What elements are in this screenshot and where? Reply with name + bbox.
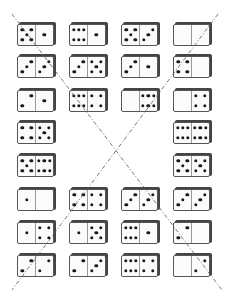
domino-half-right (139, 223, 158, 243)
pip-dot-icon (25, 198, 28, 201)
domino-half-left (174, 25, 192, 45)
pip-dot-icon (21, 70, 24, 73)
domino-half-left (70, 256, 88, 276)
pip-dot-icon (124, 236, 127, 239)
domino-half-right (35, 25, 54, 45)
domino-tile (17, 222, 54, 244)
pip-dot-icon (134, 236, 137, 239)
domino-tile (173, 155, 210, 177)
pip-dot-icon (90, 226, 93, 229)
pip-dot-icon (203, 193, 206, 196)
pip-dot-icon (82, 94, 85, 97)
domino-tile (69, 24, 106, 46)
pip-dot-icon (90, 193, 93, 196)
pip-dot-icon (43, 65, 46, 68)
domino-tile (69, 90, 106, 112)
pip-dot-icon (151, 269, 154, 272)
pip-dot-icon (204, 126, 207, 129)
domino-half-right (191, 223, 210, 243)
domino-tile (69, 56, 106, 78)
pip-dot-icon (203, 94, 206, 97)
pip-dot-icon (177, 60, 180, 63)
pip-dot-icon (29, 38, 32, 41)
domino-tile (17, 56, 54, 78)
domino-half-right (35, 156, 54, 176)
pip-dot-icon (129, 269, 132, 272)
pip-dot-icon (29, 159, 32, 162)
pip-dot-icon (185, 70, 188, 73)
domino-half-left (174, 91, 192, 111)
pip-dot-icon (142, 269, 145, 272)
pip-dot-icon (29, 259, 32, 262)
domino-half-left (18, 223, 36, 243)
domino-half-right (191, 256, 210, 276)
pip-dot-icon (125, 203, 128, 206)
pip-dot-icon (47, 226, 50, 229)
pip-dot-icon (90, 60, 93, 63)
pip-dot-icon (21, 104, 24, 107)
domino-half-left (18, 190, 36, 210)
pip-dot-icon (199, 126, 202, 129)
domino-tile (69, 189, 106, 211)
pip-dot-icon (73, 70, 76, 73)
domino-tile (173, 189, 210, 211)
pip-dot-icon (73, 193, 76, 196)
pip-dot-icon (29, 94, 32, 97)
pip-dot-icon (21, 38, 24, 41)
pip-dot-icon (177, 159, 180, 162)
pip-dot-icon (147, 94, 150, 97)
pip-dot-icon (81, 193, 84, 196)
pip-dot-icon (25, 164, 28, 167)
pip-dot-icon (177, 70, 180, 73)
pip-dot-icon (25, 33, 28, 36)
pip-dot-icon (194, 94, 197, 97)
pip-dot-icon (47, 126, 50, 129)
pip-dot-icon (133, 38, 136, 41)
pip-dot-icon (129, 198, 132, 201)
pip-dot-icon (99, 259, 102, 262)
pip-dot-icon (90, 236, 93, 239)
pip-dot-icon (43, 99, 46, 102)
pip-dot-icon (81, 60, 84, 63)
pip-dot-icon (73, 203, 76, 206)
pip-dot-icon (95, 33, 98, 36)
domino-half-left (70, 190, 88, 210)
pip-dot-icon (134, 269, 137, 272)
domino-half-left (174, 156, 192, 176)
pip-dot-icon (177, 169, 180, 172)
pip-dot-icon (152, 104, 155, 107)
pip-dot-icon (151, 28, 154, 31)
domino-tile (173, 24, 210, 46)
domino-half-right (191, 156, 210, 176)
pip-dot-icon (133, 60, 136, 63)
domino-half-right (87, 91, 106, 111)
domino-tile (17, 122, 54, 144)
pip-dot-icon (47, 259, 50, 262)
pip-dot-icon (181, 136, 184, 139)
pip-dot-icon (141, 94, 144, 97)
pip-dot-icon (193, 136, 196, 139)
pip-dot-icon (95, 264, 98, 267)
domino-tile (173, 122, 210, 144)
domino-half-right (191, 25, 210, 45)
domino-tile (121, 24, 158, 46)
pip-dot-icon (133, 193, 136, 196)
pip-dot-icon (43, 169, 46, 172)
pip-dot-icon (38, 236, 41, 239)
pip-dot-icon (48, 159, 51, 162)
domino-tile (69, 255, 106, 277)
domino-half-right (191, 123, 210, 143)
pip-dot-icon (142, 259, 145, 262)
domino-tile (69, 222, 106, 244)
pip-dot-icon (203, 169, 206, 172)
pip-dot-icon (133, 28, 136, 31)
domino-half-right (191, 190, 210, 210)
domino-half-left (18, 256, 36, 276)
pip-dot-icon (204, 136, 207, 139)
pip-dot-icon (21, 126, 24, 129)
pip-dot-icon (77, 94, 80, 97)
domino-half-right (87, 223, 106, 243)
domino-half-right (139, 25, 158, 45)
domino-half-left (122, 91, 140, 111)
domino-half-left (70, 223, 88, 243)
